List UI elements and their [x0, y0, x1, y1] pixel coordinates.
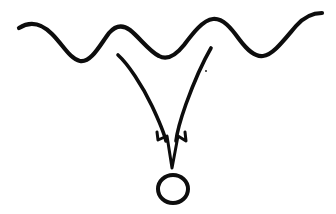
- sketch-svg: [0, 0, 336, 214]
- sketch-canvas: [0, 0, 336, 214]
- stray-dot: [205, 70, 207, 72]
